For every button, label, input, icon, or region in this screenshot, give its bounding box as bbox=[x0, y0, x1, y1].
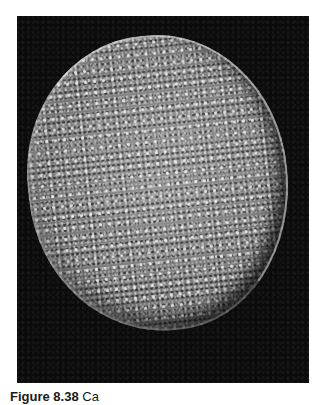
figure-photo bbox=[17, 16, 309, 383]
figure-caption-text: Ca bbox=[79, 389, 99, 404]
figure-caption-label: Figure 8.38 bbox=[10, 389, 79, 404]
figure-caption: Figure 8.38 Ca bbox=[10, 389, 99, 405]
